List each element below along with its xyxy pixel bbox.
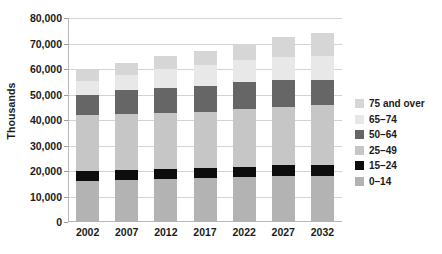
bar-segment[interactable]	[76, 181, 99, 222]
legend-color-swatch	[355, 115, 364, 124]
bar-segment[interactable]	[76, 95, 99, 115]
bar-segment[interactable]	[115, 90, 138, 113]
bar-segment[interactable]	[76, 115, 99, 171]
stacked-bar-chart: Thousands 010,00020,00030,00040,00050,00…	[0, 0, 442, 254]
bar-group[interactable]	[311, 18, 334, 222]
y-axis-tick-label: 40,000	[30, 114, 62, 126]
x-axis-tick-label: 2022	[232, 226, 255, 238]
bar-segment[interactable]	[115, 75, 138, 90]
bar-segment[interactable]	[154, 113, 177, 169]
legend-color-swatch	[355, 161, 364, 170]
y-axis-tick-label: 80,000	[30, 12, 62, 24]
bar-segment[interactable]	[194, 51, 217, 65]
legend-item-label: 15–24	[369, 160, 397, 171]
y-axis-tick-label: 0	[56, 216, 62, 228]
bar-segment[interactable]	[115, 180, 138, 222]
legend-item[interactable]: 0–14	[355, 174, 441, 190]
bar-segment[interactable]	[272, 165, 295, 176]
bar-segment[interactable]	[233, 177, 256, 222]
bar-segment[interactable]	[194, 112, 217, 168]
x-axis-tick-label: 2017	[193, 226, 216, 238]
y-axis-title-label: Thousands	[5, 83, 17, 140]
bar-segment[interactable]	[115, 170, 138, 180]
y-axis-tick-label: 60,000	[30, 63, 62, 75]
y-axis-tick-label: 30,000	[30, 140, 62, 152]
bar-segment[interactable]	[311, 165, 334, 176]
chart-legend: 75 and over65–7450–6425–4915–240–14	[355, 96, 441, 189]
bar-segment[interactable]	[311, 176, 334, 222]
bar-segment[interactable]	[272, 80, 295, 107]
x-axis-tick-label: 2002	[76, 226, 99, 238]
bar-segment[interactable]	[115, 63, 138, 75]
bar-segment[interactable]	[311, 105, 334, 164]
bars-layer	[68, 18, 342, 222]
bar-segment[interactable]	[233, 167, 256, 177]
bar-segment[interactable]	[233, 44, 256, 60]
legend-color-swatch	[355, 146, 364, 155]
bar-segment[interactable]	[115, 114, 138, 170]
bar-segment[interactable]	[194, 65, 217, 86]
bar-segment[interactable]	[76, 81, 99, 95]
x-axis-tick-label: 2012	[154, 226, 177, 238]
bar-group[interactable]	[233, 18, 256, 222]
x-axis-tick-labels: 2002200720122017202220272032	[68, 224, 342, 244]
legend-color-swatch	[355, 177, 364, 186]
bar-segment[interactable]	[272, 57, 295, 80]
bar-group[interactable]	[115, 18, 138, 222]
bar-segment[interactable]	[154, 56, 177, 69]
legend-item[interactable]: 15–24	[355, 158, 441, 174]
bar-segment[interactable]	[311, 33, 334, 55]
bar-segment[interactable]	[233, 82, 256, 109]
legend-item-label: 25–49	[369, 145, 397, 156]
legend-item-label: 0–14	[369, 176, 391, 187]
y-axis-tick-label: 50,000	[30, 89, 62, 101]
bar-segment[interactable]	[311, 56, 334, 80]
bar-segment[interactable]	[154, 69, 177, 87]
bar-segment[interactable]	[194, 178, 217, 222]
bar-segment[interactable]	[311, 80, 334, 105]
bar-segment[interactable]	[76, 69, 99, 81]
bar-group[interactable]	[272, 18, 295, 222]
y-axis-tick-labels: 010,00020,00030,00040,00050,00060,00070,…	[18, 0, 66, 254]
legend-item[interactable]: 75 and over	[355, 96, 441, 112]
legend-color-swatch	[355, 99, 364, 108]
bar-segment[interactable]	[272, 107, 295, 166]
legend-item[interactable]: 50–64	[355, 127, 441, 143]
y-axis-tick-label: 20,000	[30, 165, 62, 177]
bar-segment[interactable]	[233, 60, 256, 83]
x-axis-tick-label: 2032	[311, 226, 334, 238]
bar-segment[interactable]	[76, 171, 99, 181]
bar-group[interactable]	[76, 18, 99, 222]
legend-item-label: 50–64	[369, 129, 397, 140]
y-axis-tick-label: 10,000	[30, 191, 62, 203]
bar-segment[interactable]	[154, 179, 177, 222]
y-axis-tick-label: 70,000	[30, 38, 62, 50]
legend-item-label: 75 and over	[369, 98, 425, 109]
bar-group[interactable]	[154, 18, 177, 222]
legend-item-label: 65–74	[369, 114, 397, 125]
legend-item[interactable]: 25–49	[355, 143, 441, 159]
bar-group[interactable]	[194, 18, 217, 222]
bar-segment[interactable]	[154, 88, 177, 113]
bar-segment[interactable]	[272, 176, 295, 222]
bar-segment[interactable]	[272, 37, 295, 56]
legend-color-swatch	[355, 130, 364, 139]
bar-segment[interactable]	[194, 168, 217, 178]
bar-segment[interactable]	[233, 109, 256, 166]
x-axis-tick-label: 2027	[272, 226, 295, 238]
y-axis-tick-mark	[64, 222, 68, 223]
bar-segment[interactable]	[154, 169, 177, 179]
legend-item[interactable]: 65–74	[355, 112, 441, 128]
bar-segment[interactable]	[194, 86, 217, 112]
x-axis-tick-label: 2007	[115, 226, 138, 238]
plot-area	[68, 18, 342, 222]
